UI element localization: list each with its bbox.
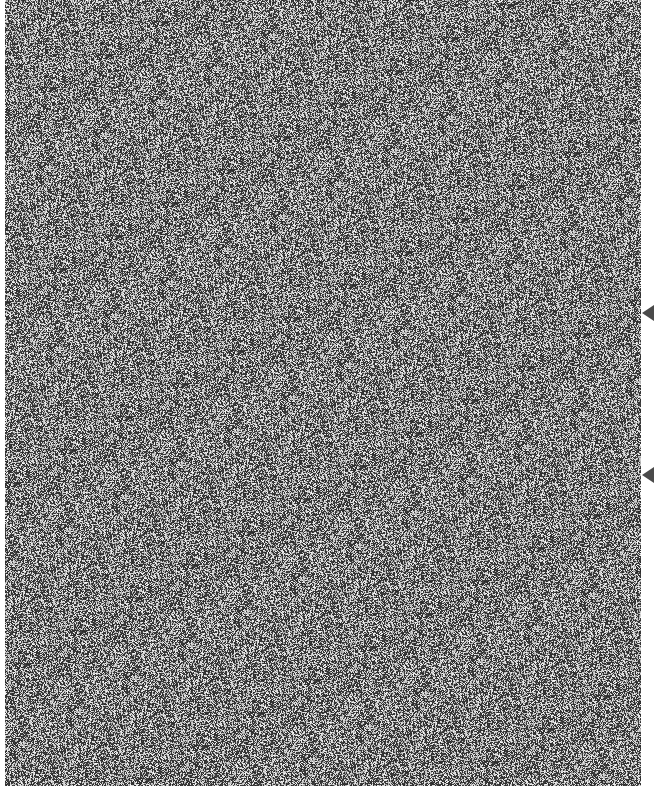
triangle-left-icon xyxy=(642,305,654,321)
noise-image xyxy=(5,0,641,786)
triangle-left-icon xyxy=(642,467,654,483)
